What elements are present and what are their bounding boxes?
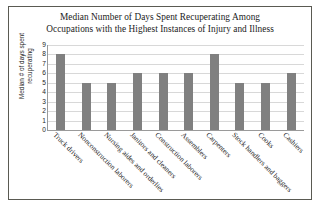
y-axis-tick-label: 9 bbox=[35, 42, 46, 49]
bar[interactable] bbox=[235, 83, 244, 130]
plot-area bbox=[47, 45, 304, 131]
bar[interactable] bbox=[107, 83, 116, 130]
y-axis-tick-label: 8 bbox=[35, 51, 46, 58]
y-axis-tick-label: 0 bbox=[35, 127, 46, 134]
bar[interactable] bbox=[82, 83, 91, 130]
chart-container: Median Number of Days Spent Recuperating… bbox=[8, 6, 312, 200]
chart-plot-wrapper: Median Number of Days Spent Recuperating… bbox=[9, 7, 313, 201]
x-axis-tick-labels: Truck driversNonconstruction laborersNur… bbox=[47, 131, 303, 201]
bar-slot bbox=[125, 45, 151, 130]
bar-slot bbox=[99, 45, 125, 130]
y-axis-tick-labels: 9876543210 bbox=[35, 45, 46, 130]
bar[interactable] bbox=[133, 73, 142, 130]
bar-slot bbox=[202, 45, 228, 130]
bar[interactable] bbox=[261, 83, 270, 130]
y-axis-tick-label: 1 bbox=[35, 117, 46, 124]
bar[interactable] bbox=[56, 54, 65, 130]
bar[interactable] bbox=[184, 73, 193, 130]
y-axis-tick-label: 4 bbox=[35, 89, 46, 96]
bar-slot bbox=[227, 45, 253, 130]
bar-slot bbox=[278, 45, 304, 130]
chart-title-line-2: Occupations with the Highest Instances o… bbox=[19, 24, 301, 36]
bar[interactable] bbox=[210, 54, 219, 130]
chart-title-line-1: Median Number of Days Spent Recuperating… bbox=[19, 12, 301, 24]
x-axis-tick-label: Cashiers bbox=[282, 131, 306, 155]
bar-series bbox=[48, 45, 304, 130]
bar-slot bbox=[176, 45, 202, 130]
bar-slot bbox=[74, 45, 100, 130]
y-axis-title-line-1: Median # of days spent bbox=[18, 33, 26, 99]
y-axis-tick-label: 6 bbox=[35, 70, 46, 77]
bar-slot bbox=[253, 45, 279, 130]
bar[interactable] bbox=[159, 73, 168, 130]
x-axis-tick-label: Janitors and cleaners bbox=[128, 131, 177, 180]
y-axis-tick-label: 5 bbox=[35, 79, 46, 86]
y-axis-title-line-2: recuperating bbox=[26, 48, 34, 84]
chart-title: Median Number of Days Spent Recuperating… bbox=[19, 12, 301, 35]
bar-slot bbox=[48, 45, 74, 130]
bar-slot bbox=[150, 45, 176, 130]
y-axis-tick-label: 2 bbox=[35, 108, 46, 115]
y-axis-tick-label: 3 bbox=[35, 98, 46, 105]
bar[interactable] bbox=[287, 73, 296, 130]
y-axis-tick-label: 7 bbox=[35, 61, 46, 68]
x-axis-tick-label: Cooks bbox=[256, 131, 275, 150]
